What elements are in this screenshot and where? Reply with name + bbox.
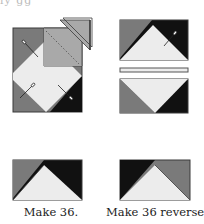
result-unit-standard (13, 160, 82, 200)
sewing-step-square (13, 18, 92, 112)
quilt-diagram (0, 0, 204, 224)
sewing-step-top-rectangle (120, 20, 188, 60)
caption-make-36: Make 36. (6, 205, 96, 219)
result-unit-reversed (120, 160, 190, 200)
connecting-strip (120, 68, 188, 72)
caption-make-36-reversed: Make 36 reversed. (106, 205, 204, 219)
sewing-step-bottom-rectangle (120, 79, 188, 113)
